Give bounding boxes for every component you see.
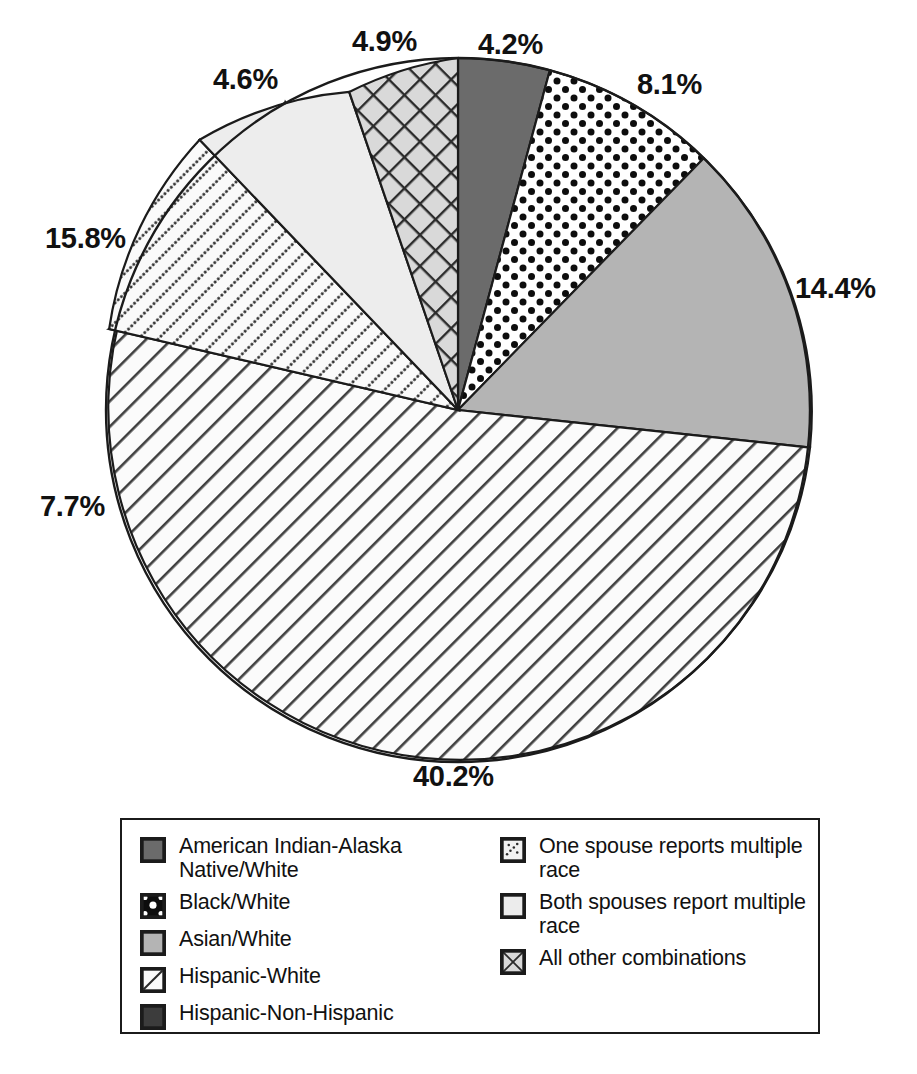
legend-label-all-other: All other combinations [539,946,746,970]
legend-item-black[interactable]: Black/White [140,890,470,919]
legend-item-one-spouse[interactable]: One spouse reports multiple race [500,834,810,882]
pie-label-black: 8.1% [637,68,702,101]
legend-label-aian: American Indian-Alaska Native/White [179,834,470,882]
legend-item-hnh[interactable]: Hispanic-Non-Hispanic [140,1001,470,1030]
pie-label-one: 15.8% [45,222,126,255]
legend-label-asian: Asian/White [179,927,292,951]
legend-swatch-hispanic-non-hispanic-icon [140,1004,166,1030]
legend-label-black: Black/White [179,890,290,914]
chart-legend: American Indian-Alaska Native/White Blac… [120,818,820,1034]
legend-swatch-all-other-icon [500,949,526,975]
pie-label-hw: 40.2% [413,760,494,793]
legend-swatch-asian-icon [140,930,166,956]
legend-item-both-spouses[interactable]: Both spouses report multiple race [500,890,810,938]
legend-item-hw[interactable]: Hispanic-White [140,964,470,993]
legend-swatch-both-spouses-icon [500,893,526,919]
pie-label-hnh: 7.7% [40,490,105,523]
legend-column-right: One spouse reports multiple race Both sp… [500,834,810,983]
legend-label-hnh: Hispanic-Non-Hispanic [179,1001,393,1025]
legend-label-hw: Hispanic-White [179,964,321,988]
legend-item-aian[interactable]: American Indian-Alaska Native/White [140,834,470,882]
legend-swatch-one-spouse-icon [500,837,526,863]
legend-label-one-spouse: One spouse reports multiple race [539,834,810,882]
legend-column-left: American Indian-Alaska Native/White Blac… [140,834,470,1038]
pie-chart-graphic [0,0,917,800]
pie-label-all: 4.9% [352,25,417,58]
legend-label-both-spouses: Both spouses report multiple race [539,890,810,938]
pie-label-asian: 14.4% [795,272,876,305]
legend-item-all-other[interactable]: All other combinations [500,946,810,975]
legend-swatch-black-icon [140,893,166,919]
legend-swatch-aian-icon [140,837,166,863]
pie-chart-figure: 4.2% 8.1% 14.4% 40.2% 7.7% 15.8% 4.6% 4.… [0,0,917,1074]
legend-swatch-hispanic-white-icon [140,967,166,993]
legend-item-asian[interactable]: Asian/White [140,927,470,956]
pie-label-aian: 4.2% [478,28,543,61]
pie-label-both: 4.6% [213,63,278,96]
